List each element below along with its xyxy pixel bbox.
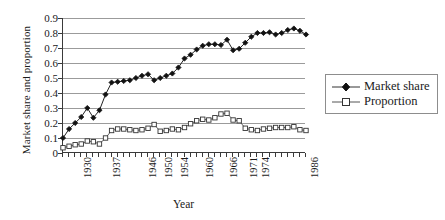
data-point-marker [85,139,89,143]
data-point-marker [304,128,308,132]
data-point-marker [255,128,259,132]
data-point-marker [297,28,302,33]
data-point-marker [303,32,308,37]
series-layer [63,18,306,153]
data-point-marker [249,128,253,132]
data-point-marker [146,126,150,130]
data-point-marker [115,79,120,84]
data-point-marker [298,128,302,132]
data-point-marker [103,136,107,140]
x-axis-tick-label: 1950 [163,157,174,178]
data-point-marker [67,144,71,148]
data-point-marker [231,118,235,122]
x-axis-tick-label: 1930 [82,157,93,178]
y-axis-tick-label: 0.9 [24,13,58,23]
data-point-marker [139,73,144,78]
y-axis-tick-label: 0.3 [24,103,58,113]
data-point-marker [61,146,65,150]
data-point-marker [261,127,265,131]
data-point-marker [182,125,186,129]
data-point-marker [164,128,168,132]
data-point-marker [115,127,119,131]
data-point-marker [127,78,132,83]
y-axis-tick-labels: 00.10.20.30.40.50.60.70.80.9 [20,18,58,153]
plot-area [62,18,305,153]
data-point-marker [194,119,198,123]
series-line [63,29,306,139]
x-axis-tick-label: 1971 [248,157,259,178]
data-point-marker [128,128,132,132]
x-axis-tick-label: 1974 [260,157,271,178]
chart-container: Market share and proportion 00.10.20.30.… [0,0,445,220]
legend-item-market-share: Market share [331,79,430,94]
y-axis-tick-label: 0.4 [24,88,58,98]
data-point-marker [170,127,174,131]
open-square-icon [331,96,361,108]
x-axis-tick-label: 1946 [147,157,158,178]
data-point-marker [212,42,217,47]
data-point-marker [200,43,205,48]
y-axis-tick-label: 0.2 [24,118,58,128]
y-axis-tick-label: 0 [24,148,58,158]
y-axis-tick-label: 0.8 [24,28,58,38]
data-point-marker [279,30,284,35]
legend-label: Proportion [364,94,417,109]
data-point-marker [91,140,95,144]
x-axis-tick-label: 1937 [111,157,122,178]
data-point-marker [280,125,284,129]
data-point-marker [291,26,296,31]
x-axis-tick-label: 1960 [204,157,215,178]
x-axis-tick-label: 1966 [228,157,239,178]
y-axis-tick-label: 0.1 [24,133,58,143]
data-point-marker [207,118,211,122]
x-axis-tick-label: 1986 [309,157,320,178]
data-point-marker [213,116,217,120]
x-axis-tickmark [305,153,306,157]
filled-diamond-icon [331,81,361,93]
data-point-marker [237,119,241,123]
x-axis-title: Year [62,198,305,210]
data-point-marker [176,128,180,132]
x-axis-tick-labels: 1930193719461950195419601966197119741986 [62,157,305,197]
y-axis-tick-label: 0.5 [24,73,58,83]
data-point-marker [273,125,277,129]
data-point-marker [122,127,126,131]
chart-legend: Market share Proportion [325,74,438,114]
data-point-marker [255,30,260,35]
data-point-marker [286,125,290,129]
data-point-marker [267,30,272,35]
data-point-marker [188,122,192,126]
data-point-marker [292,125,296,129]
data-point-marker [109,80,114,85]
data-point-marker [164,73,169,78]
data-point-marker [285,27,290,32]
y-axis-tick-label: 0.7 [24,43,58,53]
data-point-marker [158,129,162,133]
data-point-marker [225,111,229,115]
data-point-marker [134,128,138,132]
data-point-marker [140,128,144,132]
legend-item-proportion: Proportion [331,94,430,109]
data-point-marker [73,143,77,147]
legend-label: Market share [364,79,430,94]
data-point-marker [231,48,236,53]
data-point-marker [219,112,223,116]
x-axis-tick-label: 1954 [179,157,190,178]
data-point-marker [109,128,113,132]
data-point-marker [273,32,278,37]
data-point-marker [103,92,108,97]
data-point-marker [79,142,83,146]
data-point-marker [121,78,126,83]
data-point-marker [152,122,156,126]
data-point-marker [158,75,163,80]
y-axis-tick-label: 0.6 [24,58,58,68]
data-point-marker [243,126,247,130]
data-point-marker [201,117,205,121]
data-point-marker [97,142,101,146]
data-point-marker [267,126,271,130]
data-point-marker [206,42,211,47]
data-point-marker [133,75,138,80]
data-point-marker [261,30,266,35]
